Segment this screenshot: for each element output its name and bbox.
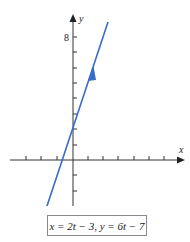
y-tick-label-8: 8 [64, 32, 69, 43]
y-axis: y 8 [64, 13, 84, 206]
x-axis: x [10, 144, 185, 164]
x-axis-arrow-icon [177, 157, 185, 164]
y-axis-label: y [78, 13, 84, 24]
equation-box: x = 2t − 3, y = 6t − 7 [47, 215, 147, 236]
y-axis-ticks [73, 37, 77, 191]
y-axis-arrow-icon [70, 14, 77, 22]
parametric-curve [47, 22, 108, 206]
parametric-line-chart: x y 8 [0, 0, 190, 242]
x-axis-label: x [178, 144, 184, 155]
x-axis-ticks [26, 156, 164, 160]
